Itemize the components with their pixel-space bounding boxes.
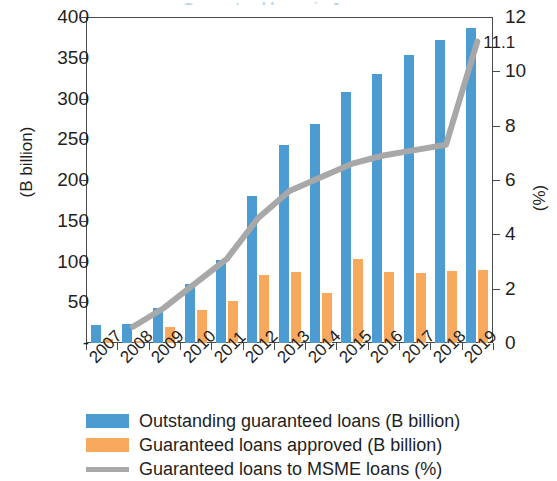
y-tick-mark-right-4 — [493, 234, 500, 235]
y-tick-label-right-8: 8 — [505, 116, 545, 135]
y-axis-label-left: (B billion) — [17, 97, 37, 227]
y-tick-mark-left-350 — [79, 58, 86, 59]
data-label-2019-percent: 11.1 — [483, 33, 515, 53]
chart-legend: Outstanding guaranteed loans (B billion)… — [0, 409, 557, 481]
legend-label-approved: Guaranteed loans approved (B billion) — [139, 435, 442, 455]
y-tick-mark-left-150 — [79, 221, 86, 222]
y-tick-mark-right-8 — [493, 126, 500, 127]
chart-figure: Guaranteed loans in Japan 20072008200920… — [0, 0, 557, 481]
legend-item-ratio: Guaranteed loans to MSME loans (%) — [0, 457, 557, 481]
legend-swatch-orange — [86, 438, 129, 452]
chart-title-cropped: Guaranteed loans in Japan — [0, 0, 557, 5]
y-tick-label-left-0: - — [35, 333, 89, 352]
y-tick-mark-left-300 — [79, 99, 86, 100]
legend-item-outstanding: Outstanding guaranteed loans (B billion) — [0, 409, 557, 433]
legend-swatch-line — [86, 467, 129, 472]
y-tick-mark-left-400 — [79, 17, 86, 18]
y-tick-mark-left-250 — [79, 139, 86, 140]
y-tick-label-right-2: 2 — [505, 279, 545, 298]
y-tick-mark-right-10 — [493, 71, 500, 72]
y-tick-mark-left-200 — [79, 180, 86, 181]
legend-label-ratio: Guaranteed loans to MSME loans (%) — [139, 459, 442, 479]
y-tick-mark-left-50 — [79, 302, 86, 303]
x-tick-mark-2012 — [243, 343, 244, 350]
y-tick-label-right-0: 0 — [505, 333, 545, 352]
legend-label-outstanding: Outstanding guaranteed loans (B billion) — [139, 411, 460, 431]
y-tick-mark-right-2 — [493, 289, 500, 290]
legend-swatch-blue — [86, 414, 129, 428]
y-tick-label-right-10: 10 — [505, 61, 545, 80]
x-tick-mark-2010 — [180, 343, 181, 350]
x-tick-mark-2017 — [399, 343, 400, 350]
legend-item-approved: Guaranteed loans approved (B billion) — [0, 433, 557, 457]
x-tick-mark-end — [493, 343, 494, 350]
y-tick-mark-right-6 — [493, 180, 500, 181]
x-tick-mark-2016 — [368, 343, 369, 350]
x-tick-mark-2014 — [305, 343, 306, 350]
x-tick-mark-2013 — [274, 343, 275, 350]
x-tick-mark-2011 — [211, 343, 212, 350]
line-series-layer — [86, 17, 493, 343]
x-tick-mark-2018 — [430, 343, 431, 350]
x-tick-mark-2008 — [117, 343, 118, 350]
x-tick-mark-2019 — [462, 343, 463, 350]
x-tick-mark-2009 — [149, 343, 150, 350]
y-tick-mark-left-100 — [79, 262, 86, 263]
y-axis-label-right: (%) — [530, 168, 550, 228]
x-tick-mark-2015 — [336, 343, 337, 350]
y-tick-label-right-12: 12 — [505, 7, 545, 26]
line-path — [133, 42, 477, 327]
plot-area — [86, 17, 493, 343]
